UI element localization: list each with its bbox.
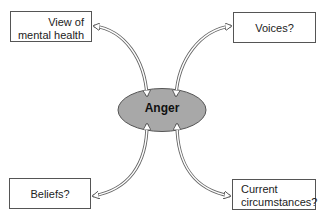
node-current-circumstances: Current circumstances? [232, 179, 316, 210]
node-voices: Voices? [233, 12, 316, 43]
node-text-line2: circumstances? [241, 196, 315, 209]
arrow-top-right [176, 26, 231, 96]
node-text: Beliefs? [30, 188, 69, 200]
node-text-line2: mental health [15, 29, 84, 42]
node-beliefs: Beliefs? [9, 178, 91, 209]
node-text-line1: Current [241, 183, 315, 196]
node-text-line1: View of [15, 16, 84, 29]
arrow-bottom-left [93, 124, 147, 196]
center-label: Anger [118, 101, 206, 115]
node-view-of-mental-health: View of mental health [10, 11, 92, 42]
arrow-bottom-right [177, 124, 230, 196]
node-text: Voices? [255, 22, 294, 34]
arrow-top-left [94, 26, 147, 96]
